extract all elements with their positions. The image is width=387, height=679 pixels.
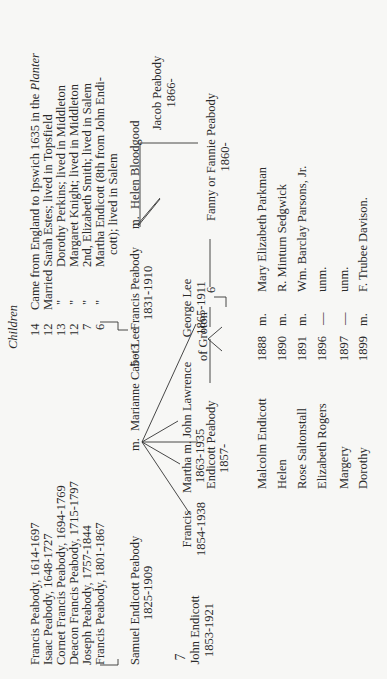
note: Married Sarah Estes; lived in Topsfield bbox=[41, 114, 55, 310]
francis-1831-dates: 1831-1910 bbox=[141, 266, 155, 320]
child-francis: Francis1854-1938 bbox=[180, 499, 208, 559]
children-count: 7 bbox=[80, 324, 94, 330]
ditto: " bbox=[67, 300, 81, 305]
page-number: 7 bbox=[174, 654, 188, 661]
rotated-page-content: Children Francis Peabody, 1614-1697 Isaa… bbox=[0, 0, 387, 679]
child-george-lee: George Lee1865-1911 bbox=[180, 273, 208, 343]
ancestor-name: Joseph Peabody, 1757-1844 bbox=[80, 525, 94, 665]
francis-1831-name: Francis Peabody bbox=[128, 247, 142, 330]
children-count: 13 bbox=[54, 324, 68, 337]
note: Martha Endicott (8th from John Endi- bbox=[93, 77, 107, 267]
child-john-endicott: John Endicott1853-1921 bbox=[188, 595, 216, 665]
note-continued: cott); lived in Salem bbox=[106, 153, 120, 255]
note: 2nd, Elizabeth Smith; lived in Salem bbox=[80, 83, 94, 267]
children-count: 12 bbox=[67, 324, 81, 337]
samuel-children-count: 5 - 3 bbox=[128, 344, 142, 367]
ancestor-name: Francis Peabody, 1801-1867 bbox=[93, 522, 107, 665]
child-fanny-peabody: Fanny or Fannie Peabody1860- bbox=[204, 77, 232, 237]
ditto: " bbox=[93, 300, 107, 305]
children-count: 12 bbox=[41, 324, 55, 337]
francis-spouse: Helen Bloodgood bbox=[128, 120, 142, 209]
ancestor-name: Cornet Francis Peabody, 1694-1769 bbox=[54, 485, 68, 665]
endicott-children-count: 6 bbox=[204, 287, 218, 293]
ancestor-name: Francis Peabody, 1614-1697 bbox=[28, 522, 42, 665]
samuel-name: Samuel Endicott Peabody bbox=[128, 536, 142, 665]
children-count: 6 bbox=[93, 324, 107, 330]
child-jacob-peabody: Jacob Peabody1866- bbox=[150, 43, 178, 143]
children-header: Children bbox=[6, 305, 20, 349]
genealogy-page: Children Francis Peabody, 1614-1697 Isaa… bbox=[0, 0, 387, 679]
marriage-m: m. bbox=[128, 216, 142, 229]
child-martha: Martha m. John Lawrence bbox=[180, 362, 194, 493]
endicott-peabody-dates: 1857- bbox=[217, 444, 231, 473]
marriage-m: m. bbox=[128, 438, 142, 451]
ditto: " bbox=[54, 300, 68, 305]
samuel-dates: 1825-1909 bbox=[141, 566, 155, 620]
ditto: " bbox=[80, 300, 94, 305]
endicott-peabody-name: Endicott Peabody bbox=[204, 400, 218, 489]
note: Margaret Knight; lived in Middleton bbox=[67, 84, 81, 267]
children-count: 14 bbox=[28, 324, 42, 337]
ancestor-name: Deacon Francis Peabody, 1715-1797 bbox=[67, 481, 81, 665]
note: Came from England to Ipswich 1635 in the… bbox=[28, 53, 42, 310]
ancestor-name: Isaac Peabody, 1648-1727 bbox=[41, 534, 55, 665]
note: Dorothy Perkins; lived in Middleton bbox=[54, 85, 68, 267]
